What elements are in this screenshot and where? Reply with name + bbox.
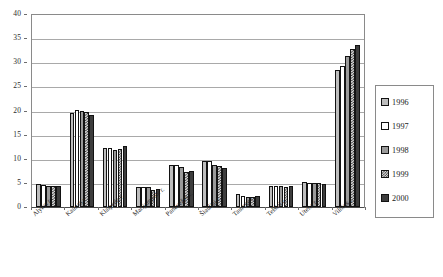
bar-chart-figure: 4035302520151050 Alytus r.Kaunas r.Klaip… xyxy=(0,0,443,277)
bar xyxy=(51,186,56,207)
y-axis-tick-label: 5 xyxy=(0,179,27,187)
bar xyxy=(355,45,360,207)
bar-group xyxy=(298,15,331,207)
y-axis-tick-label: 20 xyxy=(0,107,27,115)
legend-swatch xyxy=(381,194,389,202)
legend-item: 1998 xyxy=(381,138,430,162)
y-axis-tick-mark xyxy=(24,207,27,208)
bar-group xyxy=(231,15,264,207)
legend-swatch xyxy=(381,146,389,154)
y-axis-tick-mark xyxy=(24,111,27,112)
bar xyxy=(84,112,89,207)
legend-item: 1997 xyxy=(381,114,430,138)
y-axis-tick-label: 35 xyxy=(0,34,27,42)
bar-group xyxy=(132,15,165,207)
legend-item: 2000 xyxy=(381,186,430,210)
legend: 19961997199819992000 xyxy=(375,85,434,218)
bar-group xyxy=(165,15,198,207)
bar xyxy=(75,110,80,207)
legend-label: 2000 xyxy=(392,194,409,203)
bar xyxy=(350,49,355,207)
bar xyxy=(255,196,260,207)
y-axis-tick-mark xyxy=(24,14,27,15)
bar xyxy=(80,111,85,207)
y-axis-tick-label: 10 xyxy=(0,155,27,163)
y-axis-tick-mark xyxy=(24,86,27,87)
y-axis-tick-mark xyxy=(24,159,27,160)
bar xyxy=(340,66,345,207)
legend-swatch xyxy=(381,170,389,178)
legend-label: 1997 xyxy=(392,122,409,131)
bar xyxy=(202,161,207,207)
legend-label: 1999 xyxy=(392,170,409,179)
y-axis-tick-mark xyxy=(24,62,27,63)
bar-group xyxy=(198,15,231,207)
bar xyxy=(289,186,294,207)
legend-item: 1999 xyxy=(381,162,430,186)
legend-swatch xyxy=(381,98,389,106)
y-axis-tick-mark xyxy=(24,38,27,39)
bar xyxy=(103,148,108,207)
bar xyxy=(322,184,327,207)
bar xyxy=(335,70,340,207)
bar-group xyxy=(331,15,364,207)
bar-group xyxy=(264,15,297,207)
bar-group xyxy=(32,15,65,207)
legend-label: 1996 xyxy=(392,98,409,107)
bar xyxy=(70,113,75,207)
plot-area xyxy=(31,14,365,208)
legend-item: 1996 xyxy=(381,90,430,114)
y-axis-tick-label: 25 xyxy=(0,82,27,90)
legend-label: 1998 xyxy=(392,146,409,155)
y-axis: 4035302520151050 xyxy=(0,8,27,208)
bar xyxy=(169,165,174,207)
bar xyxy=(89,115,94,207)
y-axis-tick-mark xyxy=(24,135,27,136)
bar xyxy=(222,168,227,207)
y-axis-tick-label: 40 xyxy=(0,10,27,18)
y-axis-tick-label: 30 xyxy=(0,58,27,66)
y-axis-tick-mark xyxy=(24,183,27,184)
x-axis-labels: Alytus r.Kaunas r.Klaipėda r.Marijampolė… xyxy=(0,209,380,277)
bars-layer xyxy=(32,15,364,207)
bar xyxy=(56,186,61,207)
legend-swatch xyxy=(381,122,389,130)
bar-group xyxy=(65,15,98,207)
bar xyxy=(345,56,350,207)
bar-group xyxy=(98,15,131,207)
y-axis-tick-label: 15 xyxy=(0,131,27,139)
